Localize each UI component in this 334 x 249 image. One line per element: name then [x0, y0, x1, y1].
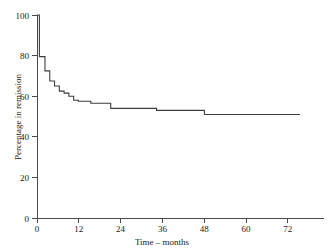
x-tick-label: 48 — [200, 224, 210, 234]
y-tick-label: 0 — [25, 214, 30, 224]
x-tick-label: 0 — [35, 224, 40, 234]
x-axis-ticks — [37, 218, 288, 223]
x-axis-tick-labels: 0 12 24 36 48 60 72 — [35, 224, 293, 234]
x-axis-title: Time – months — [135, 237, 190, 247]
y-axis-title: Percentage in remission — [13, 74, 23, 160]
chart-canvas: 100 80 60 40 20 0 0 12 24 36 48 60 72 — [0, 0, 334, 249]
x-tick-label: 36 — [158, 224, 168, 234]
x-tick-label: 12 — [74, 224, 83, 234]
survival-step-curve — [37, 15, 300, 114]
x-tick-label: 72 — [283, 224, 292, 234]
kaplan-meier-chart: 100 80 60 40 20 0 0 12 24 36 48 60 72 — [0, 0, 334, 249]
y-axis-ticks — [32, 15, 37, 218]
x-tick-label: 24 — [116, 224, 126, 234]
y-tick-label: 80 — [20, 51, 30, 61]
y-tick-label: 20 — [20, 173, 30, 183]
y-tick-label: 100 — [16, 11, 30, 21]
x-tick-label: 60 — [242, 224, 252, 234]
